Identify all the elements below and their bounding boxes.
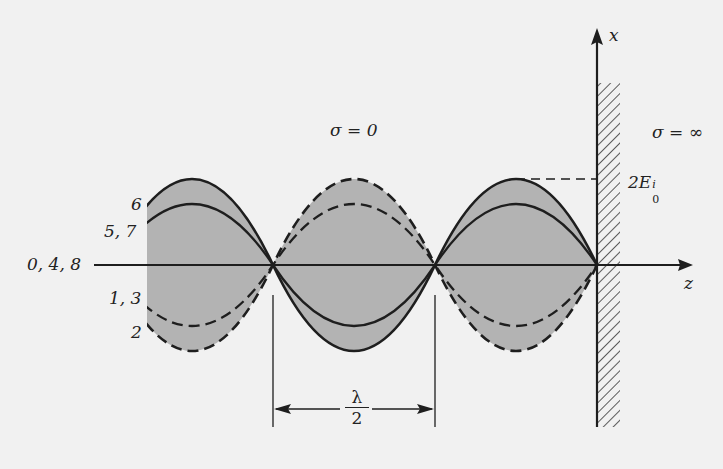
z-axis-label: z [684,275,693,292]
label-curve-6: 6 [131,196,142,213]
label-curve-1-3: 1, 3 [109,290,141,307]
label-curve-5-7: 5, 7 [104,223,136,240]
amplitude-label: 2Ei0 [628,174,659,191]
conductor-wall [597,83,620,427]
standing-wave-diagram: 6 5, 7 0, 4, 8 1, 3 2 x z σ = 0 σ = ∞ 2E… [0,0,723,469]
region-label-sigma-infinity: σ = ∞ [652,124,703,141]
wavelength-half-label: λ 2 [345,388,369,427]
x-axis-label: x [609,27,619,44]
z-axis-arrow-icon [678,259,693,271]
region-label-sigma-zero: σ = 0 [330,122,377,139]
label-curve-0-4-8: 0, 4, 8 [27,256,81,273]
label-curve-2: 2 [131,324,142,341]
